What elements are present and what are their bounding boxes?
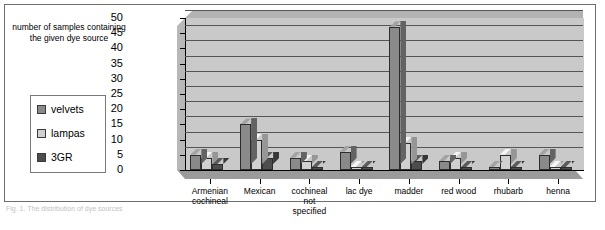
gridline	[185, 101, 583, 102]
x-axis-tick	[309, 179, 310, 184]
y-axis-tick	[180, 94, 185, 95]
y-axis-tick	[180, 109, 185, 110]
gridline	[185, 56, 583, 57]
legend-swatch-icon	[37, 129, 46, 138]
y-axis-tick	[180, 155, 185, 156]
bar-front-face	[439, 161, 450, 170]
bar-side-face	[400, 21, 406, 164]
y-axis-tick-label: 15	[77, 118, 128, 129]
y-axis-tick	[180, 124, 185, 125]
x-axis-tick	[409, 179, 410, 184]
bar-front-face	[351, 167, 362, 170]
chart-wall-top	[185, 10, 583, 18]
bar-3gr-2	[312, 167, 323, 170]
bar-velvets-6	[489, 167, 500, 170]
bar-front-face	[389, 27, 400, 170]
bar-velvets-3	[340, 152, 351, 170]
y-axis-tick-label: 5	[77, 149, 128, 160]
y-axis-tick	[180, 79, 185, 80]
x-axis-tick	[210, 179, 211, 184]
gridline	[185, 86, 583, 87]
bar-front-face	[489, 167, 500, 170]
y-axis-tick	[180, 33, 185, 34]
y-axis-tick-label: 40	[77, 42, 128, 53]
chart-floor	[177, 170, 583, 179]
x-axis-tick	[558, 179, 559, 184]
gridline	[185, 10, 583, 11]
bar-lampas-7	[550, 167, 561, 170]
y-axis-tick	[180, 18, 185, 19]
bar-front-face	[500, 155, 511, 170]
plot-area: 50454035302520151050ArmeniancochinealMex…	[128, 10, 590, 196]
legend-label: 3GR	[51, 152, 73, 163]
y-axis-tick-label: 30	[77, 73, 128, 84]
figure-container: number of samples containing the given d…	[0, 0, 605, 230]
bar-front-face	[362, 167, 373, 170]
y-axis-tick	[180, 64, 185, 65]
gridline	[185, 71, 583, 72]
gridline	[185, 25, 583, 26]
bar-3gr-0	[212, 164, 223, 170]
bar-3gr-7	[561, 167, 572, 170]
y-axis-tick-label: 10	[77, 134, 128, 145]
y-axis-tick-label: 50	[77, 12, 128, 23]
bar-front-face	[190, 155, 201, 170]
x-axis-tick	[459, 179, 460, 184]
y-axis-tick	[180, 140, 185, 141]
bar-side-face	[251, 118, 257, 164]
y-axis-tick	[180, 170, 185, 171]
x-axis-tick	[260, 179, 261, 184]
bar-velvets-0	[190, 155, 201, 170]
legend-swatch-icon	[37, 105, 46, 114]
y-axis-tick-label: 45	[77, 27, 128, 38]
y-axis-tick-label: 0	[77, 164, 128, 175]
x-axis-tick	[359, 179, 360, 184]
y-axis-tick-label: 25	[77, 88, 128, 99]
chart-baseline	[185, 170, 583, 171]
bar-velvets-4	[389, 27, 400, 170]
y-axis-tick-label: 35	[77, 58, 128, 69]
y-axis-tick	[180, 48, 185, 49]
bar-3gr-6	[511, 167, 522, 170]
bar-velvets-1	[240, 124, 251, 170]
bar-front-face	[290, 158, 301, 170]
bar-lampas-3	[351, 167, 362, 170]
bar-front-face	[212, 164, 223, 170]
x-axis-tick	[508, 179, 509, 184]
bar-3gr-5	[461, 167, 472, 170]
gridline	[185, 40, 583, 41]
bar-front-face	[550, 167, 561, 170]
bar-front-face	[461, 167, 472, 170]
bar-velvets-7	[539, 155, 550, 170]
bar-3gr-3	[362, 167, 373, 170]
bar-front-face	[312, 167, 323, 170]
x-axis-category-label: henna	[529, 186, 587, 196]
bar-front-face	[511, 167, 522, 170]
legend-item-3gr: 3GR	[37, 152, 73, 163]
bar-front-face	[539, 155, 550, 170]
bar-lampas-6	[500, 155, 511, 170]
bar-front-face	[240, 124, 251, 170]
gridline	[185, 116, 583, 117]
y-axis-tick-label: 20	[77, 103, 128, 114]
figure-caption: Fig. 1. The distribution of dye sources	[6, 205, 366, 214]
legend-swatch-icon	[37, 153, 46, 162]
bar-front-face	[340, 152, 351, 170]
bar-front-face	[561, 167, 572, 170]
bar-velvets-5	[439, 161, 450, 170]
bar-velvets-2	[290, 158, 301, 170]
